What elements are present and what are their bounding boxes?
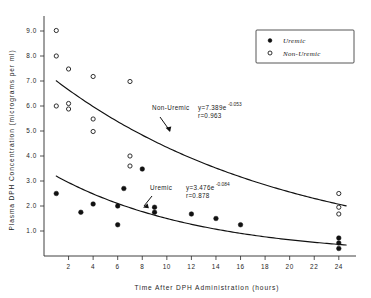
data-point-non-uremic: [54, 54, 58, 58]
y-tick-label: 5.0: [26, 127, 37, 134]
annotation-non-uremic-equation: y=7.389e: [198, 104, 227, 112]
y-axis-ticks: 1.02.03.04.05.06.07.08.09.0: [26, 27, 44, 234]
data-point-uremic: [91, 202, 96, 207]
legend-label-non-uremic: Non-Uremic: [282, 50, 321, 58]
x-tick-label: 24: [335, 263, 343, 270]
legend[interactable]: Uremic Non-Uremic: [256, 30, 354, 63]
legend-label-uremic: Uremic: [283, 37, 306, 45]
data-point-non-uremic: [337, 191, 341, 195]
x-tick-label: 12: [187, 263, 195, 270]
annotation-uremic: Uremic y=3.476e -0.084 r=0.878: [143, 182, 230, 208]
chart-figure: 1.02.03.04.05.06.07.08.09.0 246810121416…: [0, 0, 371, 298]
data-point-uremic: [152, 210, 157, 215]
data-point-non-uremic: [128, 154, 132, 158]
data-point-uremic: [115, 222, 120, 227]
data-point-non-uremic: [128, 79, 132, 83]
x-tick-label: 10: [163, 263, 171, 270]
y-tick-label: 4.0: [26, 152, 37, 159]
data-point-non-uremic: [54, 104, 58, 108]
y-tick-label: 7.0: [26, 77, 37, 84]
annotation-non-uremic-label: Non-Uremic: [152, 104, 190, 111]
x-tick-label: 18: [261, 263, 269, 270]
x-tick-label: 20: [286, 263, 294, 270]
legend-box: [256, 30, 354, 63]
data-point-non-uremic: [128, 164, 132, 168]
data-point-uremic: [79, 210, 84, 215]
data-point-uremic: [238, 222, 243, 227]
x-axis-ticks: 24681012141618202224: [66, 256, 342, 270]
annotation-uremic-equation: y=3.476e: [186, 184, 215, 192]
data-point-uremic: [337, 241, 342, 246]
y-tick-label: 1.0: [26, 227, 37, 234]
x-axis-title: Time After DPH Administration (hours): [135, 284, 280, 292]
x-tick-label: 4: [91, 263, 95, 270]
data-point-uremic: [115, 204, 120, 209]
x-tick-label: 14: [212, 263, 220, 270]
y-tick-label: 2.0: [26, 202, 37, 209]
x-tick-label: 8: [140, 263, 144, 270]
y-tick-label: 3.0: [26, 177, 37, 184]
data-point-uremic: [337, 236, 342, 241]
data-point-uremic: [54, 191, 59, 196]
y-tick-label: 9.0: [26, 27, 37, 34]
y-tick-label: 6.0: [26, 102, 37, 109]
data-point-non-uremic: [54, 28, 58, 32]
data-point-non-uremic: [91, 129, 95, 133]
data-point-uremic: [189, 212, 194, 217]
data-point-uremic: [337, 246, 342, 251]
scatter-plot: 1.02.03.04.05.06.07.08.09.0 246810121416…: [0, 0, 371, 298]
data-point-non-uremic: [337, 212, 341, 216]
legend-marker-non-uremic: [268, 51, 272, 55]
annotation-uremic-arrow: [144, 196, 152, 206]
x-tick-label: 6: [116, 263, 120, 270]
data-point-non-uremic: [66, 67, 70, 71]
data-point-non-uremic: [91, 117, 95, 121]
data-point-non-uremic: [337, 205, 341, 209]
annotation-non-uremic: Non-Uremic y=7.389e -0.053 r=0.963: [152, 102, 242, 132]
annotation-non-uremic-correlation: r=0.963: [198, 112, 222, 119]
data-point-uremic: [122, 186, 127, 191]
data-point-uremic: [152, 205, 157, 210]
x-tick-label: 16: [236, 263, 244, 270]
annotation-uremic-label: Uremic: [150, 184, 172, 191]
annotation-uremic-exponent: -0.084: [216, 182, 230, 187]
annotation-non-uremic-exponent: -0.053: [228, 102, 242, 107]
annotation-uremic-correlation: r=0.878: [186, 192, 210, 199]
x-tick-label: 2: [66, 263, 70, 270]
legend-marker-uremic: [268, 39, 272, 43]
annotation-non-uremic-arrowhead: [166, 126, 172, 132]
x-tick-label: 22: [310, 263, 318, 270]
data-point-non-uremic: [66, 101, 70, 105]
data-point-uremic: [140, 167, 145, 172]
data-point-non-uremic: [66, 107, 70, 111]
y-tick-label: 8.0: [26, 52, 37, 59]
data-point-non-uremic: [91, 74, 95, 78]
y-axis-title: Plasma DPH Concentration (micrograms per…: [8, 49, 16, 230]
data-point-uremic: [214, 216, 219, 221]
